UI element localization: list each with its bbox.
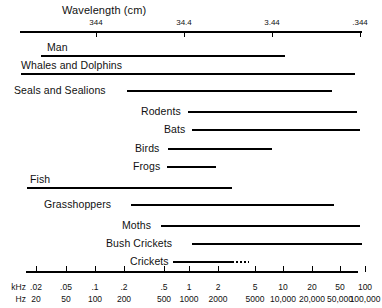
bottom-axis-tick	[164, 266, 165, 272]
row-label: Rodents	[141, 105, 181, 117]
range-bar	[21, 73, 355, 75]
top-axis-tick-label: 3.44	[264, 18, 280, 27]
bottom-axis-tick	[283, 266, 284, 272]
bottom-axis-tick	[189, 266, 190, 272]
bottom-axis-tick	[255, 266, 256, 272]
hz-tick-label: 100,000	[350, 294, 381, 304]
khz-unit-label: kHz	[2, 282, 26, 292]
range-bar	[41, 55, 285, 57]
row-label: Crickets	[130, 255, 169, 267]
row-label: Frogs	[133, 160, 160, 172]
bottom-axis-line	[26, 271, 358, 273]
hz-tick-label: 20	[31, 294, 40, 304]
hz-tick-label: 2000	[209, 294, 228, 304]
range-bar	[168, 148, 272, 150]
top-axis-tick	[184, 31, 185, 37]
top-axis-tick	[96, 31, 97, 37]
khz-tick-label: 1	[187, 282, 192, 292]
top-axis-tick-label: .344	[352, 18, 368, 27]
bottom-axis-tick	[365, 266, 366, 272]
range-bar	[192, 129, 360, 131]
row-label: Bats	[164, 123, 185, 135]
top-axis-tick	[360, 31, 361, 37]
bottom-axis-tick	[124, 266, 125, 272]
khz-tick-label: .02	[30, 282, 42, 292]
khz-tick-label: .5	[160, 282, 167, 292]
khz-tick-label: 5	[253, 282, 258, 292]
hz-tick-label: 500	[157, 294, 171, 304]
bottom-axis-tick	[95, 266, 96, 272]
bottom-axis-tick	[312, 266, 313, 272]
top-axis-tick	[272, 31, 273, 37]
row-label: Fish	[30, 173, 50, 185]
top-axis-tick-label: 344	[89, 18, 102, 27]
khz-tick-label: 10	[278, 282, 287, 292]
row-label: Grasshoppers	[44, 198, 111, 210]
range-bar	[173, 261, 232, 263]
khz-tick-label: .2	[120, 282, 127, 292]
range-bar	[161, 225, 360, 227]
hz-tick-label: 200	[117, 294, 131, 304]
row-label: Bush Crickets	[106, 237, 172, 249]
khz-tick-label: .05	[60, 282, 72, 292]
range-bar	[192, 243, 362, 245]
hz-tick-label: 5000	[246, 294, 265, 304]
range-bar	[131, 204, 334, 206]
hz-tick-label: 50	[61, 294, 70, 304]
khz-tick-label: 2	[216, 282, 221, 292]
hz-unit-label: Hz	[2, 294, 26, 304]
hz-tick-label: 10,000	[270, 294, 296, 304]
range-bar	[167, 166, 216, 168]
khz-tick-label: .1	[91, 282, 98, 292]
khz-tick-label: 50	[335, 282, 344, 292]
range-bar	[127, 90, 332, 92]
bottom-axis-tick	[218, 266, 219, 272]
hz-tick-label: 20,000	[299, 294, 325, 304]
row-label: Man	[47, 41, 68, 53]
bottom-axis-tick	[340, 266, 341, 272]
wavelength-frequency-range-chart: Wavelength (cm) 34434.43.44.344 ManWhale…	[0, 0, 382, 308]
hz-tick-label: 100	[88, 294, 102, 304]
range-bar	[188, 111, 357, 113]
top-axis-title: Wavelength (cm)	[62, 4, 146, 16]
hz-tick-label: 1000	[180, 294, 199, 304]
range-bar-dotted-extension	[232, 261, 249, 263]
khz-tick-label: 20	[307, 282, 316, 292]
top-axis-line	[20, 31, 362, 33]
top-axis-tick-label: 34.4	[176, 18, 192, 27]
bottom-axis-tick	[66, 266, 67, 272]
range-bar	[27, 187, 232, 189]
bottom-axis-tick	[36, 266, 37, 272]
row-label: Birds	[135, 142, 159, 154]
row-label: Moths	[122, 219, 151, 231]
khz-tick-label: 100	[358, 282, 372, 292]
row-label: Seals and Sealions	[14, 84, 106, 96]
row-label: Whales and Dolphins	[21, 59, 122, 71]
